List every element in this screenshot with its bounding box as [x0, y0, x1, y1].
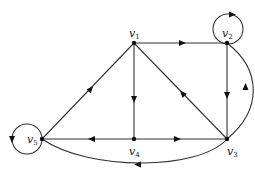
- arrow-icon: [174, 136, 181, 142]
- node-v1: [132, 41, 136, 45]
- arrow-icon: [131, 96, 137, 103]
- label-v5: v5: [27, 133, 38, 147]
- node-v2: [225, 41, 229, 45]
- arrow-icon: [229, 12, 236, 18]
- arrow-icon: [87, 86, 94, 94]
- node-v4: [132, 137, 136, 141]
- node-v5: [40, 137, 44, 141]
- arrow-icon: [9, 136, 15, 143]
- edge-v3-v2: [227, 43, 253, 139]
- label-v1: v1: [129, 27, 140, 41]
- label-v4: v4: [129, 145, 140, 159]
- arrow-icon: [88, 136, 95, 142]
- label-v2: v2: [222, 27, 233, 41]
- arrow-icon: [179, 40, 186, 46]
- label-v3: v3: [227, 145, 238, 159]
- node-v3: [225, 137, 229, 141]
- directed-graph: v1 v2 v3 v4 v5: [0, 0, 255, 176]
- arrow-icon: [243, 83, 249, 90]
- arrow-icon: [134, 162, 141, 168]
- arrow-icon: [224, 92, 230, 99]
- edge-v5-v1: [42, 43, 134, 139]
